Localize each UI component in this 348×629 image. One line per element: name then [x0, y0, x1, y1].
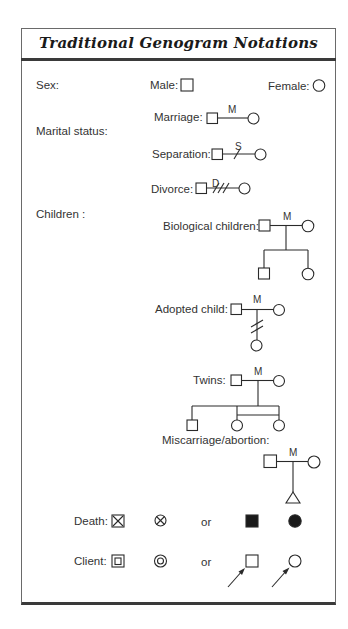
death-female-x-circle-icon [155, 515, 166, 526]
tag-twins: M [254, 366, 262, 377]
female-circle-icon [313, 80, 325, 92]
male-square-icon [181, 79, 193, 91]
client-male-double-square-icon [112, 555, 124, 567]
tag-separation: S [235, 141, 242, 152]
client-female-double-circle-icon [155, 555, 167, 567]
tag-miscarriage: M [289, 447, 297, 458]
genogram-symbols: M S D M M M M [0, 0, 348, 629]
death-female-filled-circle-icon [289, 515, 301, 527]
death-male-filled-square-icon [246, 515, 258, 527]
twins-symbol-icon [187, 375, 285, 431]
client-female-arrow-circle-icon [272, 555, 301, 587]
tag-biological: M [283, 211, 291, 222]
tag-marriage: M [228, 104, 236, 115]
death-male-x-square-icon [112, 515, 124, 527]
client-male-arrow-square-icon [228, 555, 258, 587]
tag-adopted: M [253, 294, 261, 305]
miscarriage-symbol-icon [264, 455, 320, 503]
adopted-child-symbol-icon [231, 304, 285, 351]
biological-children-symbol-icon [259, 220, 314, 280]
tag-divorce: D [212, 178, 219, 189]
divorce-symbol-icon [196, 183, 250, 194]
